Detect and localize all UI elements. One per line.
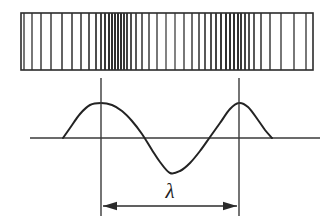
arrowhead-left-icon (103, 202, 117, 211)
wave-diagram-figure: λ (0, 0, 332, 224)
wavelength-label: λ (164, 179, 174, 203)
diagram-canvas: λ (0, 0, 332, 224)
density-strip-frame (21, 13, 313, 70)
displacement-wave-group (30, 103, 320, 174)
wavelength-measurement-group: λ (103, 179, 237, 210)
particle-density-strip (21, 13, 313, 70)
arrowhead-right-icon (223, 202, 237, 211)
